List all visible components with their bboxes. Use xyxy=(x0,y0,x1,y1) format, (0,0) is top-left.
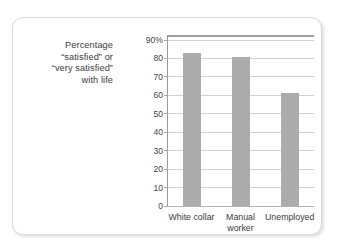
y-axis-title-line-1: Percentage xyxy=(19,40,113,52)
y-tick-label-0: 0 xyxy=(138,202,163,211)
y-tick-label-10: 10 xyxy=(138,183,163,192)
x-category-label-1: Manualworker xyxy=(216,212,265,233)
x-category-label-line: White collar xyxy=(167,212,216,223)
plot-top-border xyxy=(167,35,314,37)
x-category-label-0: White collar xyxy=(167,212,216,223)
y-tick-label-50: 50 xyxy=(138,109,163,118)
y-tickmark-0 xyxy=(164,206,168,207)
figure-frame: Percentage “satisfied” or “very satisfie… xyxy=(12,17,322,235)
y-axis-tick-labels: 0102030405060708090% xyxy=(138,40,163,206)
y-tickmark-30 xyxy=(164,150,168,151)
x-category-label-line: Unemployed xyxy=(265,212,314,223)
x-category-label-line: Manual xyxy=(216,212,265,223)
y-tickmark-80 xyxy=(164,58,168,59)
y-axis-title-line-4: with life xyxy=(19,75,113,87)
y-tick-label-80: 80 xyxy=(138,54,163,63)
gridline-90 xyxy=(167,40,314,41)
y-tickmark-60 xyxy=(164,95,168,96)
y-tick-label-60: 60 xyxy=(138,91,163,100)
y-tickmark-20 xyxy=(164,169,168,170)
y-tick-label-20: 20 xyxy=(138,165,163,174)
plot-canvas xyxy=(167,40,314,206)
y-axis-line xyxy=(167,35,168,206)
y-tickmark-50 xyxy=(164,113,168,114)
x-axis-category-labels: White collarManualworkerUnemployed xyxy=(167,210,314,240)
y-tickmark-90 xyxy=(164,40,168,41)
bar-0 xyxy=(183,53,201,206)
y-tick-label-30: 30 xyxy=(138,146,163,155)
y-axis-title: Percentage “satisfied” or “very satisfie… xyxy=(19,40,113,86)
y-axis-title-line-3: “very satisfied” xyxy=(19,63,113,75)
y-tick-label-70: 70 xyxy=(138,73,163,82)
y-tick-label-90: 90% xyxy=(138,36,163,45)
chart-page: Percentage “satisfied” or “very satisfie… xyxy=(0,0,338,244)
y-axis-title-line-2: “satisfied” or xyxy=(19,52,113,64)
x-category-label-2: Unemployed xyxy=(265,212,314,223)
y-tickmark-10 xyxy=(164,187,168,188)
bar-2 xyxy=(281,93,299,206)
bar-1 xyxy=(232,57,250,206)
y-tickmark-40 xyxy=(164,132,168,133)
y-tickmark-70 xyxy=(164,76,168,77)
plot-area: 0102030405060708090% White collarManualw… xyxy=(138,40,314,230)
y-tick-label-40: 40 xyxy=(138,128,163,137)
x-category-label-line: worker xyxy=(216,223,265,234)
